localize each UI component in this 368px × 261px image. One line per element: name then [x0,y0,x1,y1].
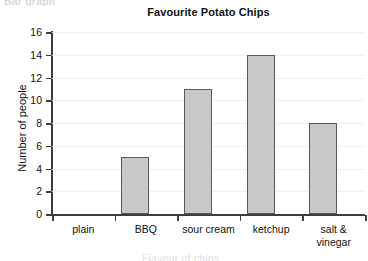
y-axis-tick-mark [46,191,52,193]
x-axis-category-label: plain [52,223,115,236]
x-axis-tick-mark [302,215,304,221]
chart-title: Favourite Potato Chips [52,6,365,18]
x-axis-tick-mark [177,215,179,221]
bar[interactable] [121,157,149,214]
bar[interactable] [184,89,212,214]
y-axis-tick-mark [46,123,52,125]
x-axis-category-label: BBQ [115,223,178,236]
x-axis-tick-mark [115,215,117,221]
y-axis-tick-mark [46,32,52,34]
y-axis-tick-mark [46,55,52,57]
y-axis-tick-label: 12 [20,72,42,84]
x-axis-tick-mark [240,215,242,221]
plot-area [52,32,365,214]
y-axis-tick-label: 2 [20,185,42,197]
x-axis-tick-mark [52,215,54,221]
bar[interactable] [309,123,337,214]
y-axis-tick-mark [46,100,52,102]
y-axis-tick-label: 14 [20,49,42,61]
x-axis-line [51,214,365,216]
y-axis-tick-label: 4 [20,163,42,175]
y-axis-tick-label: 0 [20,208,42,220]
x-axis-category-label: salt &vinegar [302,223,365,248]
gridline [52,32,365,33]
bar-chart-figure: Favourite Potato Chips Number of people … [0,0,368,261]
y-axis-tick-mark [46,169,52,171]
y-axis-tick-label: 6 [20,140,42,152]
y-axis-tick-label: 16 [20,26,42,38]
clipped-bottom-text: Flavour of chips [142,252,219,261]
x-axis-category-label: sour cream [177,223,240,236]
y-axis-tick-label: 10 [20,94,42,106]
x-axis-category-label: ketchup [240,223,303,236]
gridline [52,55,365,56]
x-axis-tick-mark [365,215,367,221]
y-axis-tick-mark [46,146,52,148]
y-axis-tick-label: 8 [20,117,42,129]
bar[interactable] [247,55,275,214]
gridline [52,78,365,79]
y-axis-tick-mark [46,78,52,80]
